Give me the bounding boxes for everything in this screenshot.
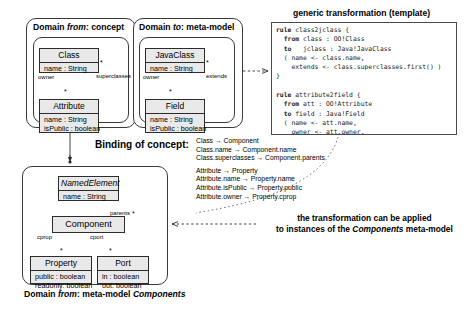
code-keyword: rule [276, 91, 291, 99]
class-name: Component [65, 219, 112, 230]
code-keyword: from [276, 100, 299, 108]
code-keyword: from [276, 35, 299, 43]
owner-multiplicity-metamodel: * [169, 88, 172, 95]
class-attributes: name : String [146, 63, 204, 74]
parents-multiplicity: * [132, 210, 135, 217]
class-box-JavaClass: JavaClass name : String [145, 48, 205, 73]
caption-from-keyword: from [58, 289, 77, 299]
figure-canvas: Domain from: concept Class name : String… [0, 0, 475, 309]
transformation-note-line2: to instances of the Components meta-mode… [276, 224, 453, 235]
extends-label: extends [206, 73, 227, 80]
code-keyword: rule [276, 26, 291, 34]
cprop-multiplicity: * [60, 247, 63, 254]
attribute: name : String [44, 64, 95, 73]
class-name: JavaClass [146, 49, 204, 63]
superclasses-multiplicity: * [100, 59, 103, 66]
class-box-Field: Field name : String isPublic : boolean [145, 99, 205, 133]
class-attributes: name : String isPublic : boolean [146, 114, 204, 135]
template-title: generic transformation (template) [293, 8, 430, 18]
class-attributes: name : String [40, 63, 98, 74]
extends-multiplicity: * [206, 59, 209, 66]
binding-mapping: Class.name → Component.name [196, 146, 325, 155]
class-box-Component: Component [52, 216, 125, 233]
class-box-Property: Property public : boolean readonly: bool… [30, 256, 92, 284]
code-keyword: to [276, 110, 291, 118]
domain-from-keyword: from [67, 22, 86, 32]
class-name: Field [146, 100, 204, 114]
transformation-note: the transformation can be applied to ins… [276, 213, 453, 235]
class-attributes: name : String isPublic : boolean [40, 114, 98, 135]
binding-mapping: Attribute.owner → Property.cprop [196, 193, 325, 202]
code-keyword: to [276, 45, 291, 53]
class-name: Port [98, 257, 148, 271]
binding-mapping: Attribute.isPublic → Property.public [196, 184, 325, 193]
attribute: isPublic : boolean [44, 124, 95, 133]
class-name: Attribute [40, 100, 98, 114]
components-keyword: Components [352, 224, 403, 234]
parents-label: parents [110, 210, 130, 217]
binding-mapping: Attribute → Property [196, 167, 325, 176]
binding-mappings: Class → Component Class.name → Component… [196, 137, 325, 201]
transformation-code: rule class2jclass { from class : OO!Clas… [276, 26, 452, 135]
domain-to-keyword: to [173, 22, 181, 32]
cport-label: cport [90, 234, 103, 241]
components-metamodel-caption: Domain from: meta-model Components [24, 289, 185, 299]
attribute: public : boolean [35, 272, 88, 281]
attribute: name : String [150, 115, 201, 124]
class-name: Property [31, 257, 91, 271]
class-box-Class: Class name : String [39, 48, 99, 73]
transformation-note-line1: the transformation can be applied [276, 213, 453, 224]
binding-mapping: Class → Component [196, 137, 325, 146]
class-box-Port: Port in : boolean out: boolean [97, 256, 149, 284]
class-name: NamedElement [59, 177, 118, 191]
binding-mapping: Attribute.name → Property.name [196, 175, 325, 184]
caption-components-keyword: Components [133, 289, 186, 299]
attribute: in : boolean [102, 272, 145, 281]
binding-mapping: Class.superclasses → Component.parents [196, 154, 325, 163]
class-box-NamedElement: NamedElement name : String [58, 176, 119, 201]
cprop-label: cprop [37, 234, 52, 241]
domain-from-concept-title: Domain from: concept [33, 22, 124, 33]
attribute: name : String [150, 64, 201, 73]
class-box-Attribute: Attribute name : String isPublic : boole… [39, 99, 99, 133]
owner-label-metamodel: owner [143, 74, 159, 81]
binding-label: Binding of concept: [95, 139, 189, 150]
attribute: name : String [63, 192, 115, 201]
domain-to-metamodel-title: Domain to: meta-model [139, 22, 235, 33]
cport-multiplicity: * [109, 247, 112, 254]
class-name: Class [40, 49, 98, 63]
owner-label-concept: owner [38, 74, 54, 81]
transformation-code-panel: rule class2jclass { from class : OO!Clas… [271, 22, 457, 135]
attribute: name : String [44, 115, 95, 124]
attribute: isPublic : boolean [150, 124, 201, 133]
class-attributes: name : String [59, 191, 118, 202]
owner-multiplicity-concept: * [64, 88, 67, 95]
superclasses-label: superclasses [96, 73, 131, 80]
